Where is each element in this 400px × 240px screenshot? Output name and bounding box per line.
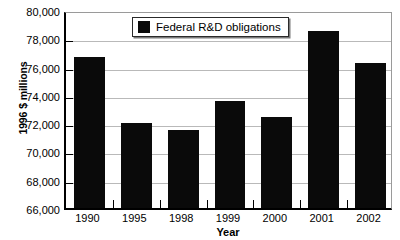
bar [355,63,386,208]
x-axis-tick-mark [300,200,301,208]
bar [308,31,339,208]
bar [74,57,105,208]
y-axis-tick-label: 70,000 [6,147,60,159]
y-axis-tick-label: 78,000 [6,34,60,46]
x-axis-tick-mark [207,200,208,208]
x-axis-tick-mark [253,200,254,208]
bar [121,123,152,208]
x-axis-tick-mark [160,200,161,208]
x-axis-tick-label: 1995 [122,212,146,224]
x-axis-tick-label: 1998 [169,212,193,224]
x-axis-tick-label: 2001 [309,212,333,224]
y-axis-tick-label: 66,000 [6,204,60,216]
x-axis-tick-label: 2000 [263,212,287,224]
x-axis-tick-label: 2002 [356,212,380,224]
legend-label: Federal R&D obligations [156,21,281,33]
y-axis-tick-label: 80,000 [6,6,60,18]
y-axis-tick-label: 74,000 [6,91,60,103]
chart-legend: Federal R&D obligations [132,17,289,37]
x-axis-tick-mark [113,200,114,208]
y-axis-tick-label: 72,000 [6,119,60,131]
bar-chart-figure: 1996 $ millions 66,00068,00070,00072,000… [0,0,400,240]
legend-swatch-icon [138,21,150,33]
bar [215,101,246,208]
plot-area [64,12,392,210]
x-axis-tick-label: 1990 [75,212,99,224]
bar-series [66,13,391,208]
y-axis-tick-labels: 66,00068,00070,00072,00074,00076,00078,0… [6,12,60,210]
y-axis-tick-label: 68,000 [6,176,60,188]
y-axis-tick-label: 76,000 [6,63,60,75]
x-axis-tick-label: 1999 [216,212,240,224]
bar [261,117,292,208]
bar [168,130,199,208]
x-axis-title: Year [64,226,392,238]
x-axis-tick-mark [347,200,348,208]
